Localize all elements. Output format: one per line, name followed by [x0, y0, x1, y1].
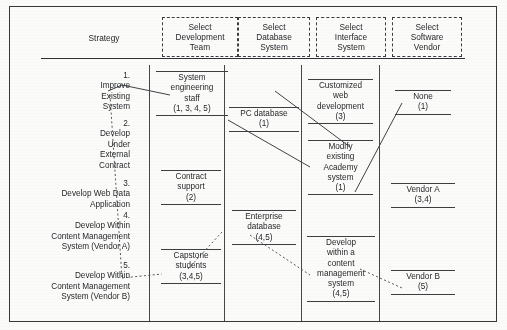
strategy-column-header: Strategy [56, 33, 152, 43]
option-pc-database[interactable]: PC database (1) [229, 107, 299, 132]
strategy-item-3: 3. Develop Web Data Application [20, 179, 130, 210]
option-vendor-b[interactable]: Vendor B (5) [391, 270, 455, 295]
option-contract-support[interactable]: Contract support (2) [161, 170, 221, 205]
strategy-item-5: 5. Develop Within Content Management Sys… [12, 261, 130, 303]
strategy-item-4: 4. Develop Within Content Management Sys… [12, 211, 130, 253]
column-divider-4 [379, 65, 380, 321]
column-divider-3 [301, 65, 302, 321]
diagram-canvas: Strategy Select Development Team Select … [0, 0, 507, 330]
option-customized-web-development[interactable]: Customized web development (3) [308, 79, 373, 124]
header-underline-rule [41, 58, 465, 59]
header-box-interface-system[interactable]: Select Interface System [316, 17, 386, 57]
header-label-database-system: Select Database System [256, 22, 292, 53]
diagram-frame: Strategy Select Development Team Select … [9, 6, 497, 322]
header-label-development-team: Select Development Team [176, 22, 225, 53]
header-label-software-vendor: Select Software Vendor [411, 22, 444, 53]
option-system-engineering-staff[interactable]: System engineering staff (1, 3, 4, 5) [156, 71, 228, 116]
strategy-item-1: 1. Improve Existing System [30, 71, 130, 113]
option-modify-existing-academy-system[interactable]: Modify existing Academy system (1) [308, 140, 373, 195]
option-develop-within-cms[interactable]: Develop within a content management syst… [307, 236, 375, 302]
strategy-item-2: 2. Develop Under External Contract [30, 119, 130, 171]
header-box-database-system[interactable]: Select Database System [238, 17, 310, 57]
option-enterprise-database[interactable]: Enterprise database (4,5) [232, 210, 296, 245]
option-capstone-students[interactable]: Capstone students (3,4,5) [161, 249, 221, 284]
header-box-software-vendor[interactable]: Select Software Vendor [392, 17, 462, 57]
option-vendor-a[interactable]: Vendor A (3,4) [391, 183, 455, 208]
column-divider-1 [149, 65, 150, 321]
header-label-interface-system: Select Interface System [335, 22, 367, 53]
option-none[interactable]: None (1) [395, 90, 451, 115]
header-box-development-team[interactable]: Select Development Team [162, 17, 238, 57]
